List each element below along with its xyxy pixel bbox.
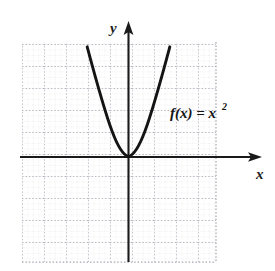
- x-axis-label: x: [255, 166, 264, 182]
- function-label-exponent: 2: [221, 101, 227, 112]
- grid: [22, 42, 216, 262]
- grid-major: [22, 42, 216, 262]
- function-label-main: f(x) = x: [170, 105, 217, 122]
- graph-canvas: y x f(x) = x 2: [0, 0, 275, 271]
- parabola-figure: y x f(x) = x 2: [0, 0, 275, 271]
- y-axis-label: y: [108, 20, 117, 36]
